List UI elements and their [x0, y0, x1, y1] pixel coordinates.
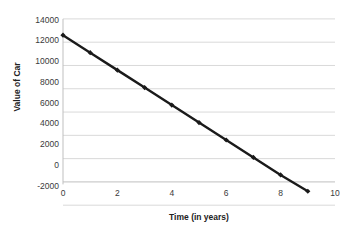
- plot-area: [0, 0, 363, 231]
- gridlines: [63, 19, 335, 205]
- value-of-car-line-chart: Value of Car Time (in years) 14000 12000…: [0, 0, 363, 231]
- data-series-line: [63, 35, 308, 191]
